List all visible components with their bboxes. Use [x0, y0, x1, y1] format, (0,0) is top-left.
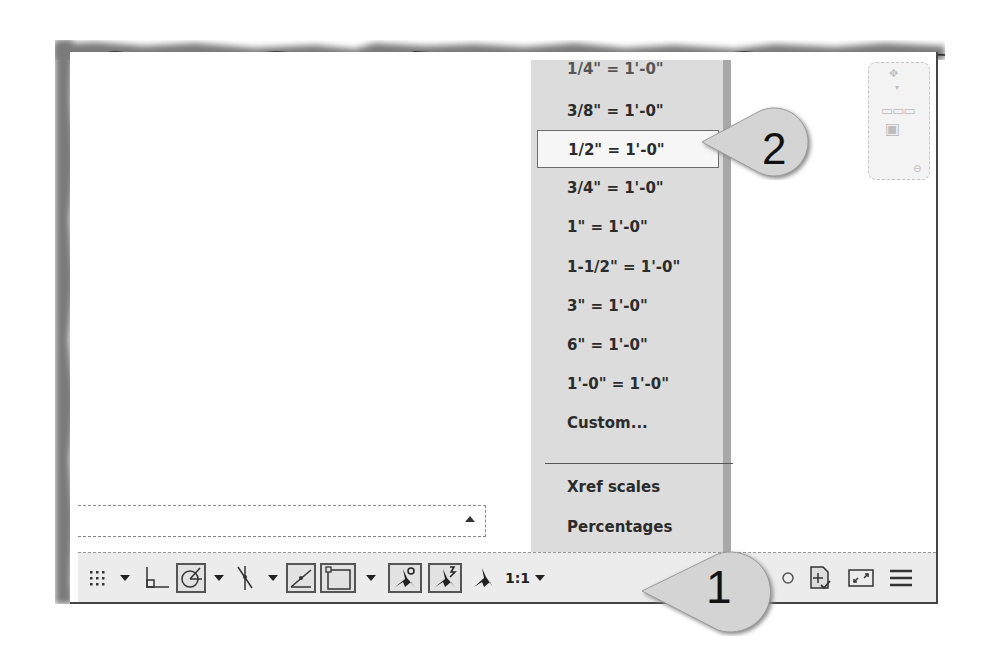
customization-menu-icon[interactable]	[886, 563, 916, 593]
snap-mode-dropdown[interactable]	[118, 563, 132, 593]
annotation-scale-value: 1:1	[505, 570, 530, 586]
menu-item-scale-3[interactable]: 3" = 1'-0"	[537, 287, 719, 325]
annotation-scale-dropdown[interactable]: 1:1	[502, 563, 548, 593]
osnap-dropdown[interactable]	[364, 563, 378, 593]
annotation-scale-icon	[470, 563, 496, 593]
view-cube-icon[interactable]: ▭▭▭	[881, 103, 915, 118]
steering-dropdown-icon[interactable]: ▾	[895, 83, 899, 92]
command-line-input[interactable]	[78, 505, 486, 537]
workspace-drawing-icon[interactable]	[806, 563, 834, 593]
showmotion-icon[interactable]: ▣	[885, 119, 900, 138]
menu-item-scale-1-1-2[interactable]: 1-1/2" = 1'-0"	[537, 248, 719, 286]
chevron-down-icon	[268, 575, 278, 581]
menu-item-scale-3-8[interactable]: 3/8" = 1'-0"	[537, 92, 719, 130]
callout-1-number: 1	[706, 560, 732, 614]
isometric-drafting-icon[interactable]	[230, 563, 260, 593]
object-snap-tracking-icon[interactable]	[286, 563, 316, 593]
menu-item-xref-scales[interactable]: Xref scales	[537, 468, 719, 506]
menu-item-scale-3-4[interactable]: 3/4" = 1'-0"	[537, 169, 719, 207]
chevron-down-icon	[535, 575, 545, 581]
grid-display-icon[interactable]	[86, 563, 110, 593]
ortho-mode-icon[interactable]	[142, 563, 172, 593]
polar-tracking-icon[interactable]	[176, 563, 206, 593]
menu-item-scale-1[interactable]: 1" = 1'-0"	[537, 208, 719, 246]
menu-item-scale-1-2[interactable]: 1/2" = 1'-0"	[537, 130, 719, 168]
menu-item-custom[interactable]: Custom...	[537, 404, 719, 442]
callout-2-number: 2	[762, 124, 786, 174]
menu-separator	[545, 463, 733, 464]
callout-2	[700, 104, 820, 180]
chevron-down-icon	[120, 575, 130, 581]
command-history-arrow-icon[interactable]	[465, 516, 475, 522]
status-bar: 1:1	[78, 552, 936, 602]
navigation-bar[interactable]: ✥ ▾ ▭▭▭ ▣ ⊖	[868, 62, 930, 180]
isodraft-dropdown[interactable]	[266, 563, 280, 593]
menu-item-scale-1-4[interactable]: 1/4" = 1'-0"	[537, 50, 719, 88]
menu-item-scale-6[interactable]: 6" = 1'-0"	[537, 326, 719, 364]
menu-item-scale-1-0[interactable]: 1'-0" = 1'-0"	[537, 365, 719, 403]
auto-scale-icon[interactable]	[428, 563, 462, 593]
menu-item-percentages[interactable]: Percentages	[537, 508, 719, 546]
polar-dropdown[interactable]	[212, 563, 226, 593]
navbar-options-icon[interactable]: ⊖	[913, 163, 921, 174]
chevron-down-icon	[366, 575, 376, 581]
chevron-down-icon	[214, 575, 224, 581]
annotation-visibility-icon[interactable]	[388, 563, 422, 593]
steering-wheel-icon[interactable]: ✥	[889, 67, 898, 80]
object-snap-icon[interactable]	[320, 563, 356, 593]
clean-screen-icon[interactable]	[846, 563, 876, 593]
